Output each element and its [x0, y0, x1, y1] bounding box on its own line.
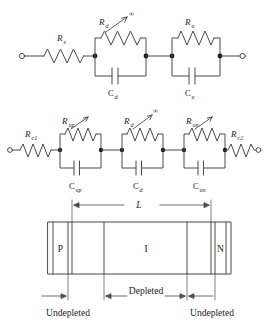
label-rc1: R c1 — [24, 129, 37, 141]
resistor-rs — [44, 49, 84, 63]
svg-text:un: un — [193, 122, 199, 128]
label-ru-top: R u — [184, 17, 195, 29]
svg-text:s: s — [64, 39, 67, 45]
svg-text:up: up — [76, 187, 82, 193]
branch-rup-cup — [60, 128, 101, 175]
dim-label-L: L — [135, 200, 141, 210]
variable-arrow-rd-bottom — [133, 115, 152, 129]
terminal-right-bottom — [256, 148, 261, 153]
svg-text:u: u — [192, 23, 195, 29]
svg-text:C: C — [69, 181, 75, 191]
svg-text:C: C — [185, 88, 191, 98]
svg-text:d: d — [115, 94, 119, 100]
region-label-n: N — [217, 244, 224, 254]
svg-text:R: R — [98, 17, 105, 27]
svg-text:R: R — [123, 116, 130, 126]
svg-text:R: R — [61, 116, 68, 126]
dim-label-depleted: Depleted — [129, 286, 164, 296]
region-label-i: I — [144, 244, 147, 254]
device-cross-section — [42, 200, 231, 300]
label-rup: R up — [61, 116, 75, 128]
dim-label-undepleted-left: Undepleted — [46, 308, 90, 318]
label-cd-bottom: C d — [133, 181, 144, 193]
label-cu-top: C u — [185, 88, 195, 100]
dim-arrow-undepleted-right — [189, 294, 213, 299]
branch-rd-cd — [95, 31, 146, 84]
resistor-rc1 — [20, 144, 51, 157]
svg-text:R: R — [230, 129, 237, 139]
terminal-left-bottom — [8, 148, 13, 153]
terminal-left-top — [19, 53, 24, 58]
svg-text:u: u — [192, 94, 195, 100]
circuit-bottom — [8, 115, 261, 175]
figure-root: R s R d ∞ R u C d C u R c1 R c2 R up R d… — [0, 0, 266, 325]
svg-text:c1: c1 — [32, 135, 38, 141]
label-cd-top: C d — [108, 88, 119, 100]
svg-text:R: R — [185, 116, 192, 126]
label-rs: R s — [56, 33, 67, 45]
label-cup: C up — [69, 181, 82, 193]
svg-text:C: C — [193, 181, 199, 191]
branch-run-cun — [184, 128, 225, 175]
region-label-p: P — [58, 244, 63, 254]
svg-text:R: R — [24, 129, 31, 139]
svg-text:∞: ∞ — [129, 10, 134, 18]
svg-text:un: un — [200, 187, 206, 193]
svg-text:c2: c2 — [238, 135, 244, 141]
branch-rd-cd-bottom — [122, 128, 163, 175]
device-body — [48, 222, 231, 274]
resistor-rc2 — [225, 144, 256, 157]
label-rc2: R c2 — [230, 129, 243, 141]
svg-text:R: R — [184, 17, 191, 27]
svg-text:R: R — [56, 33, 63, 43]
svg-text:d: d — [106, 23, 110, 29]
circuit-top — [19, 17, 245, 84]
dim-label-undepleted-right: Undepleted — [190, 308, 234, 318]
svg-text:up: up — [69, 122, 75, 128]
label-rd-bottom: R d ∞ — [123, 107, 158, 128]
label-rd-top: R d ∞ — [98, 10, 134, 29]
svg-text:C: C — [133, 181, 139, 191]
svg-text:d: d — [140, 187, 144, 193]
label-cun: C un — [193, 181, 206, 193]
branch-ru-cu — [172, 31, 220, 84]
svg-text:d: d — [131, 122, 135, 128]
terminal-right-top — [240, 53, 245, 58]
svg-text:∞: ∞ — [153, 107, 158, 115]
label-run: R un — [185, 116, 199, 128]
variable-arrow-rd-top — [106, 17, 127, 32]
dim-arrow-undepleted-left — [42, 294, 66, 299]
svg-text:C: C — [108, 88, 114, 98]
